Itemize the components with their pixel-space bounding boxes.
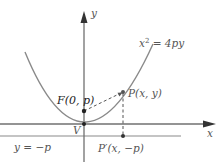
focus-point xyxy=(82,109,86,113)
curve-point xyxy=(121,90,125,94)
parabola-diagram: y x2 = 4py F(0, p) P(x, y) V y = −p P′(x… xyxy=(0,0,219,162)
directrix-label: y = −p xyxy=(14,142,51,153)
projection-point xyxy=(121,134,125,138)
point-label: P(x, y) xyxy=(128,88,162,99)
y-axis-label: y xyxy=(91,8,97,19)
x-axis-label: x xyxy=(207,128,213,139)
vertex-label: V xyxy=(73,125,81,136)
projection-label: P′(x, −p) xyxy=(98,143,144,154)
diagram-graphics xyxy=(0,0,219,162)
vertex-point xyxy=(82,122,86,126)
equation-label: x2 = 4py xyxy=(139,38,184,49)
parabola-curve xyxy=(25,44,153,122)
equation-rest: = 4py xyxy=(149,37,184,49)
y-axis-arrow-icon xyxy=(81,11,88,23)
focus-label: F(0, p) xyxy=(57,95,94,106)
